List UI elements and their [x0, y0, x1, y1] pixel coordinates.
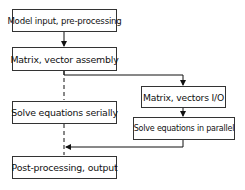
edge-assembly-to-io [64, 71, 183, 85]
node-label: Matrix, vector assembly [10, 54, 118, 65]
node-solve-serial: Solve equations serially [12, 101, 117, 124]
node-matrix-io: Matrix, vectors I/O [141, 86, 226, 108]
node-label: Matrix, vectors I/O [143, 92, 224, 103]
node-post-processing: Post-processing, output [12, 156, 117, 179]
node-label: Solve equations in parallel [134, 124, 235, 133]
node-label: Model input, pre-processing [7, 16, 121, 26]
node-label: Solve equations serially [11, 107, 118, 118]
edge-parallel-to-output [66, 140, 183, 147]
node-solve-parallel: Solve equations in parallel [133, 117, 235, 140]
node-label: Post-processing, output [12, 162, 118, 173]
node-model-input: Model input, pre-processing [12, 9, 117, 32]
node-matrix-assembly: Matrix, vector assembly [12, 47, 117, 71]
